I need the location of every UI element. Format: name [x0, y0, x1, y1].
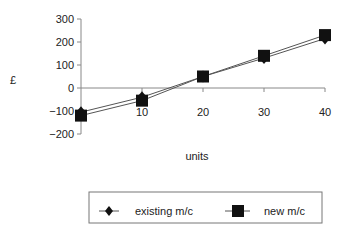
line-chart: 3002001000−100−200 10203040 £ units exis… — [0, 0, 349, 235]
y-tick-label: 100 — [56, 59, 74, 71]
square-marker — [136, 95, 148, 107]
x-tick-label: 20 — [197, 106, 209, 118]
x-tick-label: 40 — [319, 106, 331, 118]
y-tick-label: −200 — [49, 128, 74, 140]
y-tick-label: −100 — [49, 105, 74, 117]
square-marker — [258, 50, 270, 62]
x-axis-title: units — [185, 150, 209, 162]
legend: existing m/c new m/c — [89, 192, 322, 223]
x-tick-label: 30 — [258, 106, 270, 118]
x-ticks: 10203040 — [136, 88, 331, 118]
square-marker — [75, 110, 87, 122]
square-icon — [232, 205, 244, 217]
legend-label-new: new m/c — [264, 205, 305, 217]
square-marker — [197, 71, 209, 83]
y-tick-label: 300 — [56, 13, 74, 25]
y-tick-label: 0 — [68, 82, 74, 94]
legend-label-existing: existing m/c — [135, 205, 194, 217]
x-tick-label: 10 — [136, 106, 148, 118]
square-marker — [319, 29, 331, 41]
y-axis-title: £ — [10, 74, 16, 86]
y-tick-label: 200 — [56, 36, 74, 48]
